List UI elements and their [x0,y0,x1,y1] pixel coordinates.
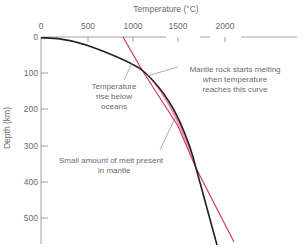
x-tick-label: 500 [81,21,95,31]
y-axis [41,37,48,244]
y-tick-label: 0 [33,32,38,42]
x-tick-label: 2000 [216,21,235,31]
diagram-canvas: Temperature (°C) 0 500 1000 1500 2000 0 … [0,0,306,249]
y-tick-label: 400 [24,177,38,187]
annotation-text: in mantle [98,166,131,175]
x-axis-title: Temperature (°C) [133,4,198,14]
solidus-annotation: Mantle rock starts melting when temperat… [189,65,280,94]
y-tick-label: 300 [24,141,38,151]
annotation-text: Small amount of melt present [59,156,164,165]
x-axis [41,37,297,42]
annotation-text: Mantle rock starts melting [189,65,280,74]
y-axis-title: Depth (km) [2,107,12,149]
annotation-text: when temperature [202,75,268,84]
annotation-text: reaches this curve [203,85,268,94]
geotherm-annotation: Temperature rise below oceans [92,82,137,111]
x-tick-labels: 0 500 1000 1500 2000 [39,21,235,31]
x-tick-label: 1500 [169,21,188,31]
melt-region [142,70,196,168]
x-tick-label: 0 [39,21,44,31]
y-tick-label: 100 [24,68,38,78]
y-tick-label: 500 [24,213,38,223]
annotation-text: Temperature [92,82,137,91]
y-tick-label: 200 [24,104,38,114]
leader-melt [160,118,175,150]
leader-solidus [147,67,178,76]
annotation-text: oceans [101,102,127,111]
annotation-text: rise below [96,92,132,101]
melt-annotation: Small amount of melt present in mantle [59,156,164,175]
leader-geotherm [124,63,132,80]
y-tick-labels: 0 100 200 300 400 500 [24,32,38,223]
x-tick-label: 1000 [124,21,143,31]
